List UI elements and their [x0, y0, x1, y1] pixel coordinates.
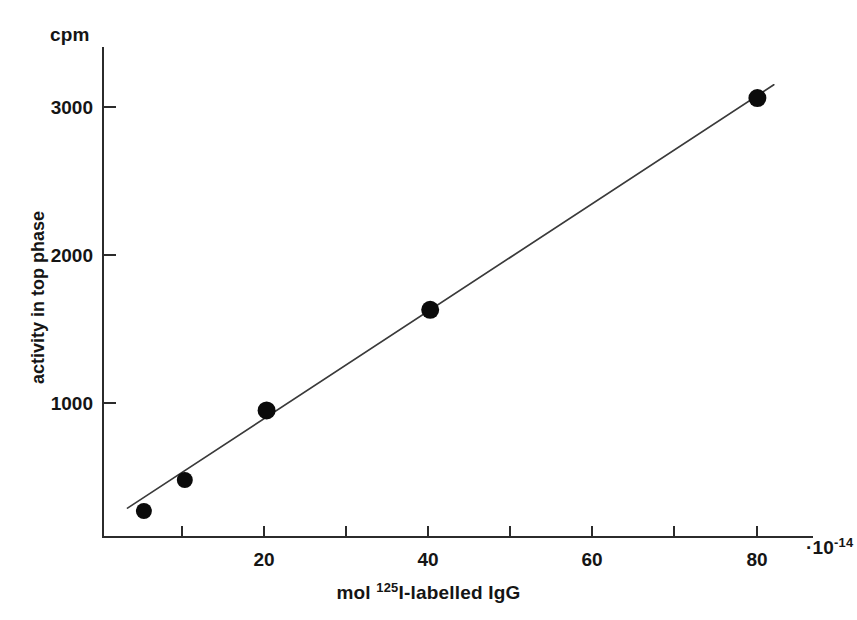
y-tick-label-3000: 3000	[51, 97, 93, 118]
x-axis-multiplier: ·10-14	[806, 535, 853, 559]
y-tick-label-1000: 1000	[51, 393, 93, 414]
x-multiplier-base: ·10	[806, 537, 834, 558]
data-point	[421, 301, 439, 319]
chart-figure: cpm activity in top phase 3000 2000 1000	[0, 0, 857, 620]
y-tick-label-2000: 2000	[51, 245, 93, 266]
x-axis	[103, 526, 812, 537]
x-tick-label-60: 60	[581, 549, 602, 570]
x-tick-label-20: 20	[253, 549, 274, 570]
x-tick-label-40: 40	[417, 549, 438, 570]
x-axis-tick-labels: 20 40 60 80	[253, 549, 767, 570]
y-axis-tick-labels: 3000 2000 1000	[51, 97, 93, 414]
data-point	[177, 472, 193, 488]
chart-plot-area: 3000 2000 1000 20 40 60 80	[0, 0, 857, 620]
x-multiplier-exponent: -14	[834, 535, 853, 550]
y-axis	[103, 48, 116, 537]
x-tick-label-80: 80	[746, 549, 767, 570]
x-title-prefix: mol	[336, 582, 376, 603]
data-points-group	[136, 89, 767, 519]
x-title-superscript: 125	[376, 580, 398, 595]
x-title-suffix: I-labelled IgG	[398, 582, 520, 603]
data-point	[258, 401, 276, 419]
data-point	[136, 503, 152, 519]
x-axis-title: mol 125I-labelled IgG	[0, 580, 857, 604]
data-point	[748, 89, 766, 107]
linear-fit-line	[128, 85, 774, 508]
